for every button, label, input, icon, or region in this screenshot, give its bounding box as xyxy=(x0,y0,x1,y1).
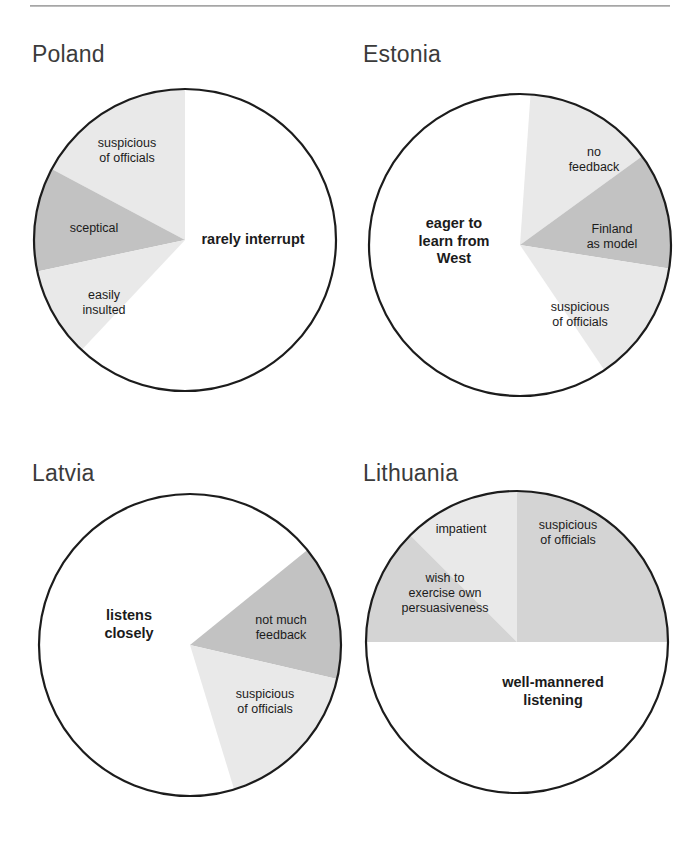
panel-title-lithuania: Lithuania xyxy=(363,460,458,487)
pie-slice-lithuania-well-mannered-listening xyxy=(366,642,668,793)
pie-chart-figure: PolandEstoniaLatviaLithuania rarely inte… xyxy=(0,0,700,846)
wedge-label-lithuania-impatient: impatient xyxy=(436,522,487,537)
wedge-label-estonia-suspicious-of-officials: suspicious of officials xyxy=(551,300,609,330)
wedge-label-poland-rarely-interrupt: rarely interrupt xyxy=(201,231,304,249)
panel-title-latvia: Latvia xyxy=(32,460,95,487)
wedge-label-poland-suspicious-of-officials: suspicious of officials xyxy=(98,136,156,166)
pie-lithuania xyxy=(366,491,668,793)
wedge-label-lithuania-well-mannered-listening: well-mannered listening xyxy=(502,674,604,709)
pie-latvia xyxy=(39,494,341,796)
panel-title-estonia: Estonia xyxy=(363,41,441,68)
wedge-label-estonia-eager-to-learn-from-west: eager to learn from West xyxy=(419,215,490,268)
wedge-label-lithuania-suspicious-of-officials: suspicious of officials xyxy=(539,518,597,548)
wedge-label-poland-easily-insulted: easily insulted xyxy=(82,288,125,318)
wedge-label-latvia-not-much-feedback: not much feedback xyxy=(255,613,306,643)
wedge-label-latvia-suspicious-of-officials: suspicious of officials xyxy=(236,687,294,717)
wedge-label-estonia-no-feedback: no feedback xyxy=(569,145,620,175)
wedge-label-estonia-finland-as-model: Finland as model xyxy=(587,222,638,252)
panel-title-poland: Poland xyxy=(32,41,105,68)
wedge-label-lithuania-wish-to-exercise-own-persuasiveness: wish to exercise own persuasiveness xyxy=(402,571,489,616)
wedge-label-latvia-listens-closely: listens closely xyxy=(104,607,153,642)
wedge-label-poland-sceptical: sceptical xyxy=(70,221,119,236)
pie-chart-canvas xyxy=(0,0,700,846)
pie-slice-lithuania-suspicious-of-officials xyxy=(517,491,668,642)
